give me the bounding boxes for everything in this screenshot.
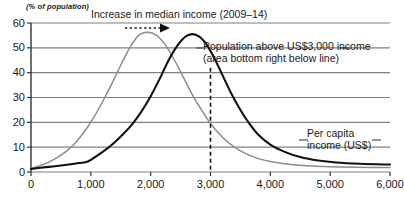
y-tick-label-40: 40	[3, 67, 25, 78]
x-tick-label-6000: 6,000	[376, 179, 404, 190]
annotation-population-line2: (area bottom right below line)	[203, 53, 371, 65]
x-tick-label-4000: 4,000	[257, 179, 285, 190]
y-tick-label-0: 0	[3, 167, 25, 178]
x-tick-label-1000: 1,000	[77, 179, 105, 190]
annotation-population-line1: Population above US$3,000 income	[203, 41, 371, 53]
y-tick-label-10: 10	[3, 142, 25, 153]
y-tick-label-60: 60	[3, 18, 25, 29]
median-shift-arrow-icon	[125, 24, 170, 33]
y-tick-label-30: 30	[3, 92, 25, 103]
annotation-median-shift: Increase in median income (2009–14)	[91, 9, 267, 21]
y-tick-label-20: 20	[3, 117, 25, 128]
annotation-per-capita-line2: income (US$)	[307, 140, 371, 152]
annotation-population-threshold: Population above US$3,000 income (area b…	[203, 41, 371, 64]
x-tick-label-2000: 2,000	[137, 179, 165, 190]
x-tick-label-3000: 3,000	[197, 179, 225, 190]
annotation-per-capita-line1: Per capita	[307, 128, 371, 140]
y-tick-label-50: 50	[3, 42, 25, 53]
x-tick-marks	[31, 172, 390, 176]
annotation-per-capita-income: Per capita income (US$)	[307, 128, 371, 151]
x-tick-label-0: 0	[28, 179, 34, 190]
x-tick-label-5000: 5,000	[316, 179, 344, 190]
